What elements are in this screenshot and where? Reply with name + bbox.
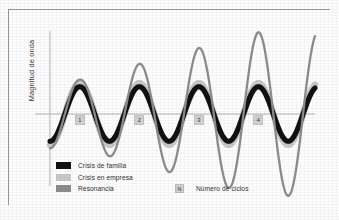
legend-label-resonancia: Resonancia xyxy=(78,185,114,192)
cycle-key-symbol: N xyxy=(175,184,184,193)
y-axis-label: Magnitud de onda xyxy=(27,29,36,113)
legend-item: Resonancia xyxy=(56,183,133,195)
cycle-number-key: N Número de ciclos xyxy=(175,184,249,193)
figure-page: Magnitud de onda 1234 Crisis de familia … xyxy=(0,0,339,220)
legend-swatch-crisis-empresa xyxy=(56,174,71,181)
legend-label-crisis-empresa: Crisis en empresa xyxy=(78,174,133,181)
legend-item: Crisis de familia xyxy=(56,160,133,172)
figure-frame: Magnitud de onda 1234 Crisis de familia … xyxy=(8,9,330,205)
cycle-marker-2: 2 xyxy=(134,115,144,125)
cycle-key-label: Número de ciclos xyxy=(196,185,249,192)
cycle-marker-4: 4 xyxy=(253,115,263,125)
legend-label-crisis-familia: Crisis de familia xyxy=(78,162,126,169)
legend-swatch-resonancia xyxy=(56,185,71,192)
legend: Crisis de familia Crisis en empresa Reso… xyxy=(56,160,133,195)
cycle-marker-3: 3 xyxy=(194,115,204,125)
cycle-marker-1: 1 xyxy=(75,115,85,125)
legend-swatch-crisis-familia xyxy=(56,162,71,169)
legend-item: Crisis en empresa xyxy=(56,172,133,184)
